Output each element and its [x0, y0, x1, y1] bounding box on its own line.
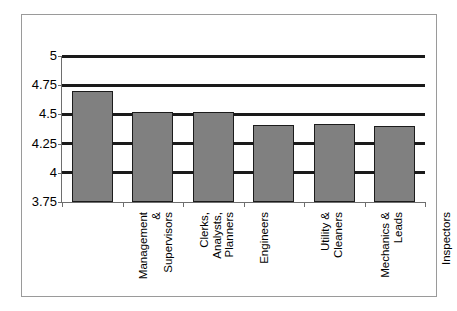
bar-chart-figure: 3.7544.254.54.755 Management & Superviso…	[0, 0, 457, 311]
y-axis-tick-label: 4.5	[39, 107, 57, 120]
x-axis-tick-mark	[183, 202, 184, 207]
bar	[314, 124, 355, 202]
x-axis-category-label: Utility & Cleaners	[319, 212, 344, 302]
bar	[193, 112, 234, 202]
y-axis-tick-labels: 3.7544.254.54.755	[0, 0, 57, 311]
x-axis-tick-mark	[244, 202, 245, 207]
bar	[132, 112, 173, 202]
y-axis-tick-label: 3.75	[32, 195, 57, 208]
x-axis-tick-mark	[62, 202, 63, 207]
bar	[253, 125, 294, 202]
gridline	[62, 142, 425, 145]
y-axis-tick-label: 4	[50, 166, 57, 179]
x-axis-category-label: Management & Supervisors	[137, 212, 175, 302]
x-axis-category-label: Engineers	[258, 212, 271, 302]
y-axis-tick-label: 5	[50, 49, 57, 62]
gridline	[62, 171, 425, 174]
x-axis-tick-mark	[123, 202, 124, 207]
bar	[374, 126, 415, 202]
gridline	[62, 55, 425, 58]
x-axis-tick-mark	[425, 202, 426, 207]
x-axis-category-label: Clerks, Analysts, Planners	[198, 212, 236, 302]
y-axis-tick-label: 4.75	[32, 78, 57, 91]
x-axis-tick-mark	[365, 202, 366, 207]
bar	[72, 91, 113, 202]
plot-area	[62, 56, 425, 202]
gridline	[62, 84, 425, 87]
x-axis-category-label: Mechanics & Leads	[379, 212, 404, 302]
x-axis-tick-mark	[304, 202, 305, 207]
x-axis-category-label: Inspectors	[440, 212, 453, 302]
gridline	[62, 113, 425, 116]
y-axis-tick-label: 4.25	[32, 137, 57, 150]
